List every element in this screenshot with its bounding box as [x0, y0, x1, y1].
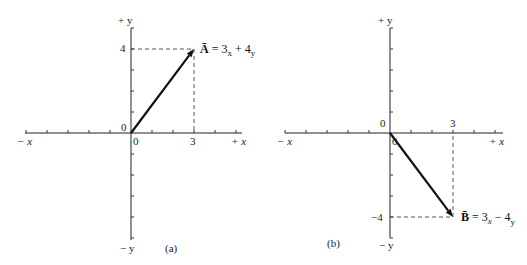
- neg-x-label: − x: [17, 135, 32, 147]
- vector-a-label: Ā = 3x + 4y: [200, 42, 256, 58]
- vector-a-symbol: Ā: [200, 42, 209, 56]
- y-mark-label: −4: [371, 211, 383, 223]
- caption-a: (a): [165, 242, 178, 255]
- caption-b: (b): [327, 237, 340, 250]
- vector-b-shaft: [390, 133, 448, 211]
- vector-a-eq: = 3: [209, 42, 228, 56]
- pos-x-label: + x: [489, 135, 504, 147]
- vector-b-minus: − 4: [492, 210, 511, 224]
- neg-x-label: − x: [277, 135, 292, 147]
- pos-y-label: + y: [118, 14, 133, 26]
- vector-b-sub-y: y: [511, 217, 516, 227]
- x-mark-label: 3: [190, 135, 196, 147]
- panel-b: + y − y − x + x 0 0 3 −4 B̄ = 3x − 4y (b…: [277, 14, 516, 251]
- neg-y-label: − y: [379, 239, 394, 251]
- vector-b-eq: = 3: [469, 210, 488, 224]
- vector-a-sub-y: y: [251, 48, 256, 58]
- origin-y-label: 0: [121, 121, 127, 133]
- neg-y-label: − y: [120, 242, 135, 254]
- vector-diagram: + y − y − x + x 0 0 3 4 Ā = 3x + 4y (a)…: [0, 0, 527, 265]
- y-mark-label: 4: [120, 42, 126, 54]
- origin-x-label: 0: [133, 135, 139, 147]
- vector-b-symbol: B̄: [461, 210, 469, 224]
- vector-b-label: B̄ = 3x − 4y: [461, 210, 516, 227]
- x-mark-label: 3: [450, 117, 456, 129]
- panel-a: + y − y − x + x 0 0 3 4 Ā = 3x + 4y (a): [17, 14, 256, 255]
- origin-y-label: 0: [380, 117, 386, 129]
- pos-x-label: + x: [231, 135, 246, 147]
- origin-x-label: 0: [392, 135, 398, 147]
- pos-y-label: + y: [378, 14, 393, 26]
- vector-a-shaft: [131, 55, 189, 133]
- vector-a-plus: + 4: [232, 42, 251, 56]
